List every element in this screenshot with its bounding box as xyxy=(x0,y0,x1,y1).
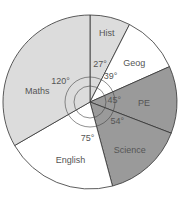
slice-angle-hist: 27° xyxy=(93,59,107,69)
pie-chart: Hist27°Geog39°PE45°Science54°English75°M… xyxy=(0,0,182,199)
slice-label-hist: Hist xyxy=(99,28,115,38)
slice-angle-science: 54° xyxy=(110,116,124,126)
slice-label-pe: PE xyxy=(138,98,150,108)
slice-label-maths: Maths xyxy=(25,86,50,96)
slice-angle-pe: 45° xyxy=(107,95,121,105)
slice-label-science: Science xyxy=(114,145,146,155)
slice-angle-geog: 39° xyxy=(104,71,118,81)
slice-angle-english: 75° xyxy=(81,133,95,143)
slice-angle-maths: 120° xyxy=(51,76,70,86)
slice-label-geog: Geog xyxy=(123,58,145,68)
slice-label-english: English xyxy=(56,155,86,165)
